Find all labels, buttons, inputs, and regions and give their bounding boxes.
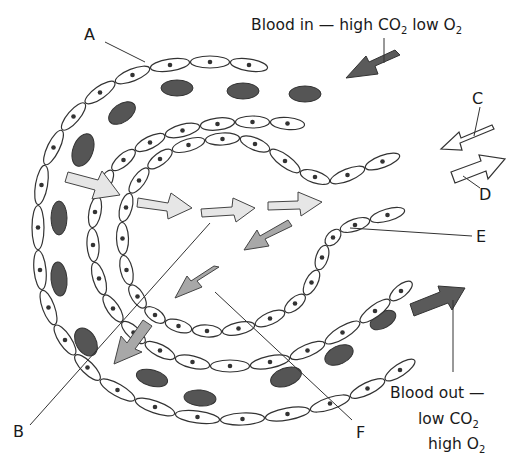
cell-nucleus — [176, 324, 181, 329]
cell-nucleus — [353, 223, 358, 228]
cell-nucleus — [186, 143, 191, 148]
gas-exchange-arrows-cd — [441, 125, 505, 183]
alveolus-capillary-diagram: A C D E B F Blood in — high CO2 low O2 B… — [0, 0, 516, 468]
cell-nucleus — [124, 205, 129, 210]
cell-nucleus — [345, 173, 350, 178]
label-d: D — [479, 185, 491, 204]
label-e: E — [476, 227, 486, 246]
cell-nucleus — [39, 183, 44, 188]
blood-out-arrow — [410, 286, 465, 316]
cell-nucleus — [46, 305, 51, 310]
blood-flow-arrows — [346, 50, 465, 316]
cell-nucleus — [305, 348, 310, 353]
cell-nucleus — [158, 157, 163, 162]
cell-nucleus — [285, 412, 290, 417]
cell-nucleus — [253, 142, 258, 147]
cell-nucleus — [120, 236, 125, 241]
cell-nucleus — [205, 329, 210, 334]
cell-nucleus — [97, 276, 102, 281]
blood-out-caption-line3: high O2 — [428, 435, 485, 455]
cell-nucleus — [153, 313, 158, 318]
cell-nucleus — [293, 301, 298, 306]
label-b: B — [13, 422, 24, 441]
cell-nucleus — [130, 73, 135, 78]
cell-nucleus — [328, 401, 333, 406]
cell-nucleus — [309, 280, 314, 285]
cell-nucleus — [137, 178, 142, 183]
cell-nucleus — [93, 210, 98, 215]
cell-nucleus — [51, 145, 56, 150]
cell-nucleus — [240, 417, 245, 422]
cell-nucleus — [195, 415, 200, 420]
cell-nucleus — [63, 338, 68, 343]
diagram-canvas: A C D E B F Blood in — high CO2 low O2 B… — [0, 0, 516, 468]
cell-nucleus — [36, 225, 41, 230]
cell-nucleus — [153, 405, 158, 410]
cell-nucleus — [247, 63, 252, 68]
cell-nucleus — [373, 309, 378, 314]
epithelial-cell-layers — [32, 56, 418, 426]
cell-nucleus — [398, 368, 403, 373]
cell-nucleus — [124, 268, 129, 273]
cell-nucleus — [380, 159, 385, 164]
cell-nucleus — [111, 306, 116, 311]
cell-nucleus — [98, 90, 103, 95]
cell-nucleus — [268, 316, 273, 321]
cell-nucleus — [313, 175, 318, 180]
cell-nucleus — [331, 235, 336, 240]
blood-in-caption: Blood in — high CO2 low O2 — [251, 16, 462, 36]
cell-nucleus — [91, 243, 96, 248]
cell-nucleus — [115, 388, 120, 393]
cell-nucleus — [215, 122, 220, 127]
cell-nucleus — [340, 330, 345, 335]
cell-nucleus — [385, 213, 390, 218]
cell-nucleus — [365, 386, 370, 391]
cell-nucleus — [148, 140, 153, 145]
cell-nucleus — [220, 137, 225, 142]
cell-nucleus — [208, 60, 213, 65]
cell-nucleus — [320, 255, 325, 260]
blood-out-caption-line2: low CO2 — [418, 410, 479, 430]
arrow-d — [451, 155, 505, 183]
blood-out-caption-line1: Blood out — — [390, 384, 484, 402]
arrow-c — [441, 125, 494, 150]
oxygen-arrows — [65, 171, 322, 222]
cell-nucleus — [71, 114, 76, 119]
cell-nucleus — [399, 289, 404, 294]
cell-nucleus — [180, 128, 185, 133]
label-c: C — [472, 89, 483, 108]
label-f: F — [356, 423, 365, 442]
cell-nucleus — [228, 364, 233, 369]
cell-nucleus — [190, 360, 195, 365]
blood-in-arrow — [346, 50, 400, 78]
cell-nucleus — [268, 360, 273, 365]
cell-nucleus — [168, 63, 173, 68]
cell-nucleus — [236, 326, 241, 331]
cell-nucleus — [158, 348, 163, 353]
cell-nucleus — [85, 365, 90, 370]
cell-nucleus — [38, 268, 43, 273]
cell-nucleus — [250, 120, 255, 125]
cell-nucleus — [285, 121, 290, 126]
cell-nucleus — [283, 159, 288, 164]
cell-nucleus — [135, 294, 140, 299]
cell-nucleus — [121, 158, 126, 163]
label-a: A — [84, 25, 95, 44]
